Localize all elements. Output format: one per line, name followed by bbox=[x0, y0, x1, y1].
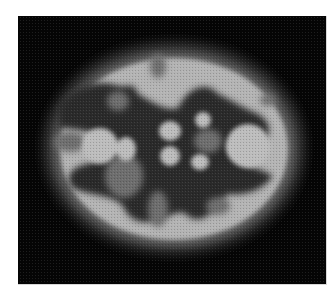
scan-frame bbox=[18, 16, 327, 285]
dither-overlay bbox=[18, 16, 326, 284]
brain-scan-image bbox=[18, 16, 326, 284]
